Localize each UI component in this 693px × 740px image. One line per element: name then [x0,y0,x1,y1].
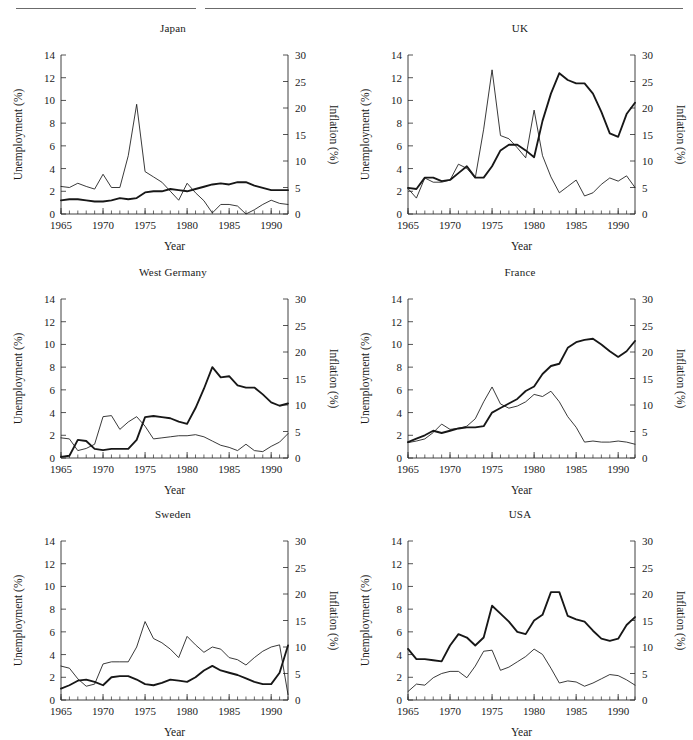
panel-japan: Japan02468101214051015202530196519701975… [0,22,346,266]
panel-france: France0246810121405101520253019651970197… [347,266,693,510]
left-axis-title: Unemployment (%) [359,333,372,425]
x-tick-label: 1990 [607,705,630,717]
x-axis-title: Year [511,726,532,738]
right-tick-label: 0 [642,452,648,464]
chart-svg: 0246810121405101520253019651970197519801… [347,508,693,740]
x-tick-label: 1965 [397,219,420,231]
x-tick-label: 1970 [439,463,462,475]
x-axis-title: Year [164,726,185,738]
right-tick-label: 25 [295,562,307,574]
right-tick-label: 20 [295,346,307,358]
right-tick-label: 20 [642,102,654,114]
left-tick-label: 4 [50,649,56,661]
series-inflation [408,649,635,691]
chart-svg: 0246810121405101520253019651970197519801… [0,22,346,266]
left-tick-label: 14 [44,535,56,547]
right-tick-label: 10 [642,399,654,411]
axis-frame [61,299,288,458]
right-tick-label: 25 [295,320,307,332]
left-tick-label: 6 [50,626,56,638]
left-tick-label: 2 [50,185,56,197]
left-tick-label: 10 [44,580,56,592]
series-inflation [61,416,288,452]
left-axis-title: Unemployment (%) [359,575,372,667]
left-tick-label: 10 [391,580,403,592]
x-tick-label: 1990 [607,219,630,231]
right-tick-label: 20 [295,588,307,600]
chart-svg: 0246810121405101520253019651970197519801… [0,266,346,510]
left-tick-label: 14 [391,535,403,547]
axis-frame [408,541,635,700]
right-tick-label: 30 [642,535,654,547]
right-tick-label: 30 [642,293,654,305]
right-tick-label: 15 [642,129,654,141]
right-tick-label: 20 [642,346,654,358]
right-tick-label: 25 [642,562,654,574]
left-tick-label: 8 [50,361,56,373]
x-tick-label: 1985 [565,705,588,717]
axis-frame [61,541,288,700]
series-inflation [61,622,288,695]
left-tick-label: 8 [397,361,403,373]
left-tick-label: 6 [397,140,403,152]
left-tick-label: 10 [391,94,403,106]
x-tick-label: 1975 [481,463,504,475]
x-tick-label: 1975 [134,219,157,231]
left-tick-label: 14 [391,293,403,305]
left-tick-label: 12 [391,558,402,570]
right-tick-label: 30 [642,49,654,61]
left-tick-label: 8 [397,117,403,129]
x-tick-label: 1975 [134,463,157,475]
header-rule-right [205,8,683,9]
left-tick-label: 8 [50,117,56,129]
left-tick-label: 4 [50,163,56,175]
series-inflation [408,70,635,198]
right-tick-label: 5 [295,668,301,680]
right-tick-label: 0 [642,694,648,706]
x-tick-label: 1985 [565,463,588,475]
left-axis-title: Unemployment (%) [12,333,25,425]
left-tick-label: 12 [391,316,402,328]
series-unemployment [408,592,635,661]
x-tick-label: 1975 [481,219,504,231]
right-tick-label: 10 [295,155,307,167]
x-tick-label: 1970 [92,219,115,231]
left-axis-title: Unemployment (%) [12,575,25,667]
right-tick-label: 20 [642,588,654,600]
left-tick-label: 4 [397,649,403,661]
x-tick-label: 1970 [92,705,115,717]
series-unemployment [61,182,288,201]
x-tick-label: 1980 [523,463,546,475]
x-tick-label: 1965 [50,463,73,475]
series-unemployment [408,73,635,189]
right-axis-title: Inflation (%) [327,591,340,651]
right-tick-label: 25 [642,76,654,88]
left-tick-label: 8 [397,603,403,615]
right-tick-label: 15 [295,373,307,385]
x-axis-title: Year [511,484,532,496]
right-axis-title: Inflation (%) [674,349,687,409]
right-tick-label: 0 [295,452,301,464]
x-tick-label: 1980 [176,705,199,717]
right-tick-label: 0 [295,208,301,220]
left-tick-label: 10 [391,338,403,350]
right-tick-label: 15 [295,615,307,627]
right-tick-label: 10 [642,641,654,653]
x-tick-label: 1990 [260,219,283,231]
x-tick-label: 1970 [92,463,115,475]
x-tick-label: 1980 [176,463,199,475]
left-axis-title: Unemployment (%) [12,89,25,181]
left-tick-label: 6 [50,140,56,152]
series-inflation [61,104,288,214]
x-tick-label: 1980 [176,219,199,231]
left-tick-label: 6 [50,384,56,396]
left-tick-label: 14 [391,49,403,61]
left-tick-label: 6 [397,626,403,638]
x-tick-label: 1980 [523,219,546,231]
right-tick-label: 20 [295,102,307,114]
left-tick-label: 12 [44,72,55,84]
left-tick-label: 2 [50,671,56,683]
right-tick-label: 5 [642,182,648,194]
right-tick-label: 5 [642,668,648,680]
right-tick-label: 30 [295,535,307,547]
